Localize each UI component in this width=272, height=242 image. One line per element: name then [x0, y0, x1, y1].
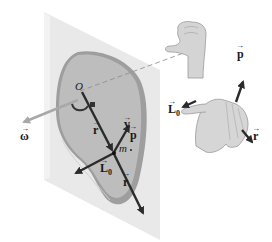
- svg-text:0: 0: [108, 168, 112, 177]
- svg-text:r: r: [93, 123, 99, 137]
- diagram-canvas: O → ω → r → v → p m → L 0 → r: [0, 0, 272, 242]
- p-label-hand: → p: [236, 41, 244, 61]
- svg-text:m: m: [119, 142, 127, 154]
- svg-text:r: r: [253, 129, 259, 143]
- svg-text:0: 0: [176, 109, 180, 118]
- origin-label: O: [75, 80, 83, 92]
- svg-text:L: L: [100, 161, 108, 175]
- svg-text:p: p: [237, 47, 244, 61]
- svg-text:p: p: [130, 128, 137, 142]
- r-label-hand: → r: [252, 124, 260, 143]
- p-vector-hand: [236, 82, 243, 102]
- svg-text:ω: ω: [20, 129, 29, 143]
- p-label-body: → p: [129, 122, 137, 142]
- omega-label: → ω: [20, 124, 29, 143]
- svg-text:r: r: [123, 175, 129, 189]
- svg-text:L: L: [168, 102, 176, 116]
- mass-point: [112, 151, 116, 155]
- right-angle-marker: [90, 102, 95, 107]
- lower-hand-icon: [182, 99, 249, 152]
- L0-label-hand: → L 0: [168, 97, 180, 118]
- upper-hand-icon: [166, 21, 207, 78]
